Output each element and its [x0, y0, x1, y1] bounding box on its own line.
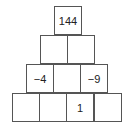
- pyramid-cell-r1-c0: [40, 35, 68, 64]
- pyramid-cell-r2-c1: [53, 64, 81, 93]
- pyramid-cell-r1-c1: [67, 35, 95, 64]
- pyramid-cell-r2-c2: −9: [80, 64, 108, 93]
- pyramid-cell-r3-c1: [39, 93, 67, 122]
- pyramid-cell-r3-c2: 1: [66, 93, 94, 122]
- pyramid-cell-r2-c0: −4: [26, 64, 54, 93]
- pyramid-cell-r3-c3: [94, 93, 122, 122]
- pyramid-cell-r3-c0: [12, 93, 40, 122]
- pyramid-cell-r0-c0: 144: [54, 6, 82, 35]
